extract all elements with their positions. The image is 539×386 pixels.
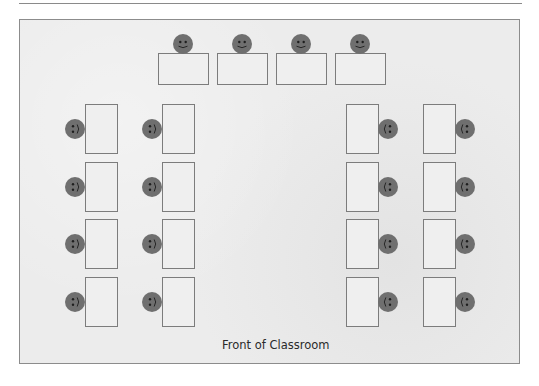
student-smiley-icon [455, 177, 475, 197]
student-smiley-icon [173, 34, 193, 54]
student-smiley-icon [378, 292, 398, 312]
student-smiley-icon [65, 119, 85, 139]
student-smiley-icon [65, 177, 85, 197]
desk-left-column [162, 219, 195, 269]
desk-top-row [158, 53, 209, 85]
desk-top-row [276, 53, 327, 85]
desk-right-column [346, 277, 379, 327]
student-smiley-icon [350, 34, 370, 54]
student-smiley-icon [142, 119, 162, 139]
student-smiley-icon [232, 34, 252, 54]
desk-right-column [423, 219, 456, 269]
student-smiley-icon [142, 292, 162, 312]
desk-right-column [423, 277, 456, 327]
student-smiley-icon [378, 119, 398, 139]
student-smiley-icon [65, 292, 85, 312]
student-smiley-icon [142, 234, 162, 254]
student-smiley-icon [378, 234, 398, 254]
student-smiley-icon [291, 34, 311, 54]
student-smiley-icon [455, 234, 475, 254]
student-smiley-icon [65, 234, 85, 254]
desk-left-column [85, 277, 118, 327]
desk-right-column [346, 219, 379, 269]
student-smiley-icon [455, 292, 475, 312]
desk-left-column [162, 277, 195, 327]
desk-right-column [346, 162, 379, 212]
desk-left-column [85, 104, 118, 154]
desk-top-row [217, 53, 268, 85]
desk-left-column [162, 104, 195, 154]
desk-top-row [335, 53, 386, 85]
desk-right-column [423, 104, 456, 154]
desk-left-column [85, 219, 118, 269]
student-smiley-icon [142, 177, 162, 197]
top-divider-line [19, 3, 522, 4]
desk-right-column [423, 162, 456, 212]
desk-left-column [162, 162, 195, 212]
desk-left-column [85, 162, 118, 212]
front-of-classroom-label: Front of Classroom [222, 338, 330, 352]
student-smiley-icon [455, 119, 475, 139]
student-smiley-icon [378, 177, 398, 197]
desk-right-column [346, 104, 379, 154]
